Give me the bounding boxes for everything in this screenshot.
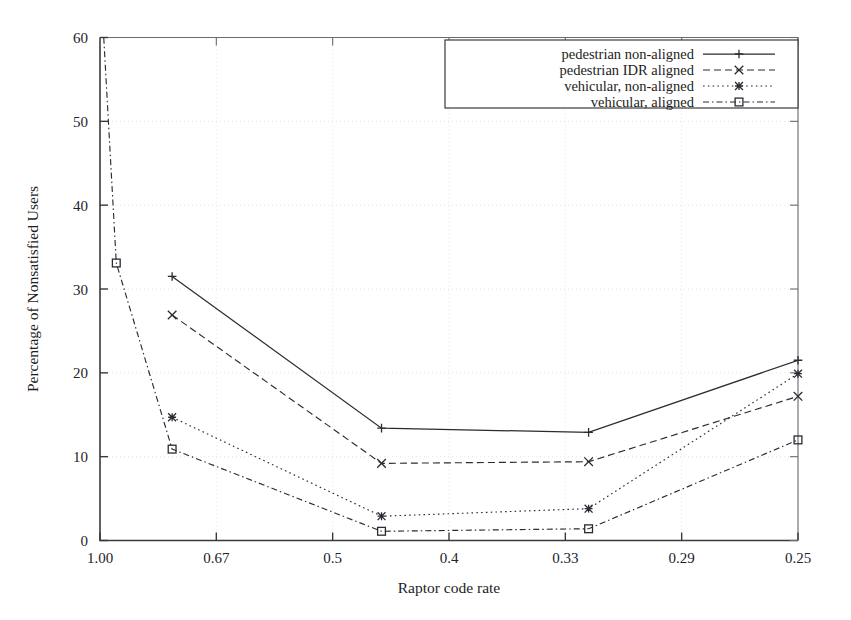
y-tick-label: 0 (81, 533, 89, 549)
y-tick-label: 40 (73, 198, 88, 214)
data-point-marker-2 (168, 413, 176, 421)
x-tick-label: 0.4 (440, 550, 459, 566)
data-point-marker-1 (168, 311, 177, 320)
data-point-marker-0 (168, 272, 177, 281)
x-tick-label: 0.29 (669, 550, 695, 566)
legend-label-1: pedestrian IDR aligned (560, 62, 695, 78)
data-point-marker-0 (794, 356, 803, 365)
data-point-marker-2 (585, 505, 593, 513)
x-tick-label: 0.67 (203, 550, 230, 566)
series-line-1 (172, 315, 798, 463)
x-tick-label: 0.25 (785, 550, 811, 566)
legend-label-3: vehicular, aligned (591, 94, 695, 110)
x-tick-label: 0.33 (552, 550, 578, 566)
y-tick-label: 30 (73, 282, 88, 298)
line-chart: 01020304050601.000.670.50.40.330.290.25R… (0, 0, 851, 620)
y-tick-label: 20 (73, 365, 88, 381)
x-tick-label: 1.00 (87, 550, 113, 566)
x-tick-label: 0.5 (323, 550, 342, 566)
legend-sample-marker-2 (735, 82, 743, 90)
chart-figure: 01020304050601.000.670.50.40.330.290.25R… (0, 0, 851, 620)
series-line-0 (172, 276, 798, 432)
series-line-2 (172, 374, 798, 517)
y-tick-label: 10 (73, 449, 88, 465)
y-axis-label: Percentage of Nonsatisfied Users (24, 186, 41, 392)
x-axis-label: Raptor code rate (398, 579, 501, 596)
data-point-marker-2 (378, 512, 386, 520)
data-point-marker-0 (584, 428, 593, 437)
data-point-marker-2 (794, 370, 802, 378)
data-point-marker-1 (584, 457, 593, 466)
legend-label-0: pedestrian non-aligned (562, 46, 695, 62)
y-tick-label: 50 (73, 114, 88, 130)
legend-label-2: vehicular, non-aligned (564, 78, 695, 94)
data-point-marker-0 (377, 424, 386, 433)
y-tick-label: 60 (73, 30, 88, 46)
